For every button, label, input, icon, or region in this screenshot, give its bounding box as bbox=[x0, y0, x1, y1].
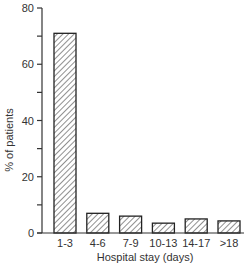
bar->18 bbox=[218, 221, 240, 233]
bar-chart: 020406080 1-34-67-910-1314-17>18 % of pa… bbox=[0, 0, 249, 278]
x-tick-label: 14-17 bbox=[182, 237, 210, 249]
y-axis-title: % of patients bbox=[3, 108, 15, 172]
x-axis: 1-34-67-910-1314-17>18 bbox=[37, 233, 244, 249]
y-tick-label: 40 bbox=[22, 115, 34, 127]
x-tick-label: 4-6 bbox=[90, 237, 106, 249]
y-axis: 020406080 bbox=[22, 2, 42, 239]
bar-10-13 bbox=[152, 223, 174, 233]
x-tick-label: 1-3 bbox=[57, 237, 73, 249]
y-tick-label: 80 bbox=[22, 2, 34, 14]
bars bbox=[54, 33, 240, 233]
x-tick-label: >18 bbox=[220, 237, 239, 249]
x-axis-title: Hospital stay (days) bbox=[97, 251, 194, 263]
bar-14-17 bbox=[185, 219, 207, 233]
y-tick-label: 60 bbox=[22, 58, 34, 70]
x-tick-label: 10-13 bbox=[149, 237, 177, 249]
y-tick-label: 0 bbox=[28, 227, 34, 239]
y-tick-label: 20 bbox=[22, 171, 34, 183]
x-tick-label: 7-9 bbox=[123, 237, 139, 249]
bar-4-6 bbox=[87, 213, 109, 233]
bar-1-3 bbox=[54, 33, 76, 233]
bar-7-9 bbox=[120, 216, 142, 233]
